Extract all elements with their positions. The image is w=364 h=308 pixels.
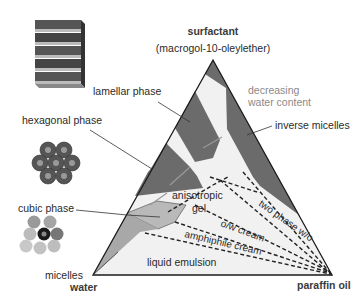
vertex-label-paraffin: paraffin oil xyxy=(297,279,351,291)
vertex-label-surfactant: surfactant xyxy=(188,25,239,37)
phase-diagram: surfactant (macrogol-10-oleylether) wate… xyxy=(0,0,364,308)
label-micelles: micelles xyxy=(45,269,83,281)
label-anisotropic: anisotropic xyxy=(172,189,223,201)
vertex-label-water: water xyxy=(69,281,97,293)
label-inverse-micelles: inverse micelles xyxy=(275,119,350,131)
cubic-illustration-icon xyxy=(20,216,64,255)
leader-hexagonal xyxy=(90,130,152,169)
label-hexagonal-phase: hexagonal phase xyxy=(22,114,102,126)
hexagonal-illustration-icon xyxy=(32,142,80,184)
annotation-decreasing: decreasing xyxy=(248,84,300,96)
annotation-water-content: water content xyxy=(247,96,311,108)
leader-cubic xyxy=(76,210,127,215)
vertex-sublabel-surfactant: (macrogol-10-oleylether) xyxy=(156,42,270,54)
lamellar-illustration-icon xyxy=(35,20,85,88)
label-gel: gel xyxy=(192,202,206,214)
label-lamellar-phase: lamellar phase xyxy=(93,85,161,97)
label-cubic-phase: cubic phase xyxy=(18,202,74,214)
label-liquid-emulsion: liquid emulsion xyxy=(147,256,217,268)
